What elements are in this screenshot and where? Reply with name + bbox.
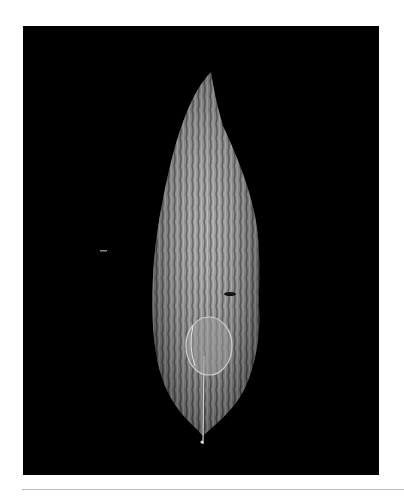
leaf-photograph xyxy=(23,26,379,475)
speck xyxy=(100,250,107,252)
divider-line xyxy=(22,489,404,490)
leaf-illustration xyxy=(23,26,379,475)
leaf-stem-tip xyxy=(201,441,204,444)
circular-patch xyxy=(186,317,232,375)
dark-mark xyxy=(224,292,236,296)
